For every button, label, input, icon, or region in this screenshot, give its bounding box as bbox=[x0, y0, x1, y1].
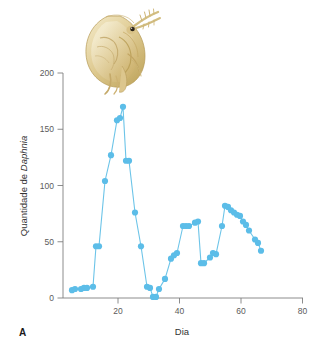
data-point bbox=[147, 285, 153, 291]
data-point bbox=[162, 276, 168, 282]
data-point bbox=[153, 294, 159, 300]
y-tick-label-0: 0 bbox=[49, 293, 54, 303]
data-point bbox=[258, 248, 264, 254]
data-point bbox=[219, 223, 225, 229]
data-point bbox=[72, 286, 78, 292]
data-point bbox=[132, 209, 138, 215]
y-axis-title-italic: Daphnia bbox=[18, 136, 29, 171]
panel-label: A bbox=[19, 327, 26, 338]
y-axis-title: Quantidade de Daphnia bbox=[18, 136, 29, 236]
y-tick-label-200: 200 bbox=[40, 68, 54, 78]
figure-panel: 0 50 100 150 200 20 40 60 80 Dia Quantid… bbox=[0, 0, 324, 353]
data-point bbox=[186, 223, 192, 229]
data-point bbox=[96, 243, 102, 249]
y-tick-label-50: 50 bbox=[45, 237, 55, 247]
data-point bbox=[243, 222, 249, 228]
daphnia-abundance-chart: 0 50 100 150 200 20 40 60 80 Dia Quantid… bbox=[0, 0, 324, 353]
x-axis-title: Dia bbox=[175, 326, 190, 337]
data-point bbox=[201, 260, 207, 266]
x-tick-label-60: 60 bbox=[236, 306, 246, 316]
series-line bbox=[72, 107, 261, 297]
x-tick-label-80: 80 bbox=[298, 306, 308, 316]
y-tick-label-100: 100 bbox=[40, 181, 54, 191]
data-point bbox=[102, 178, 108, 184]
data-point bbox=[84, 285, 90, 291]
data-point bbox=[138, 243, 144, 249]
data-point bbox=[246, 227, 252, 233]
y-axis-title-prefix: Quantidade de bbox=[18, 171, 29, 236]
x-axis: 20 40 60 80 bbox=[63, 298, 307, 316]
y-axis: 0 50 100 150 200 bbox=[40, 68, 63, 303]
x-tick-label-20: 20 bbox=[113, 306, 123, 316]
data-point bbox=[174, 250, 180, 256]
data-point bbox=[108, 152, 114, 158]
data-point bbox=[156, 286, 162, 292]
series-markers bbox=[69, 104, 264, 300]
data-point bbox=[255, 240, 261, 246]
daphnia-series bbox=[69, 104, 264, 300]
data-point bbox=[213, 251, 219, 257]
data-point bbox=[126, 158, 132, 164]
y-tick-label-150: 150 bbox=[40, 124, 54, 134]
data-point bbox=[120, 104, 126, 110]
data-point bbox=[117, 115, 123, 121]
data-point bbox=[195, 218, 201, 224]
data-point bbox=[237, 213, 243, 219]
data-point bbox=[90, 284, 96, 290]
x-tick-label-40: 40 bbox=[175, 306, 185, 316]
